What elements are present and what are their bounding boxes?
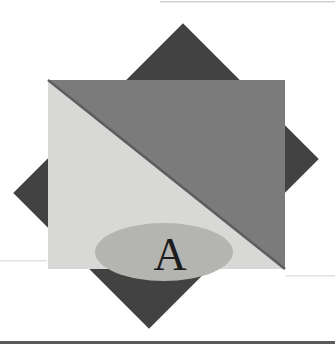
right-faint-line xyxy=(286,275,335,277)
label-a: A xyxy=(153,229,186,280)
left-faint-line xyxy=(0,260,47,262)
figure-canvas: A xyxy=(0,0,335,348)
geometric-figure: A xyxy=(0,0,335,348)
bottom-rule xyxy=(0,341,335,344)
top-rule xyxy=(160,1,335,3)
